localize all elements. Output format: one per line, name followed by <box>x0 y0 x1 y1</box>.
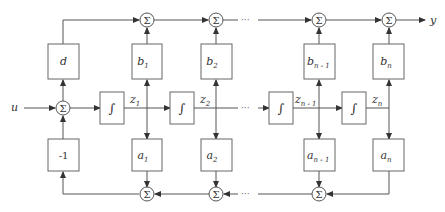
sum-input: Σ <box>56 101 70 115</box>
svg-text:Σ: Σ <box>143 15 150 26</box>
svg-text:Σ: Σ <box>143 189 150 200</box>
state-zn-label: zn <box>371 93 383 108</box>
svg-text:Σ: Σ <box>385 15 392 26</box>
state-z1-label: z1 <box>129 93 140 108</box>
gain-b1-block: b1 <box>132 28 162 108</box>
svg-text:Σ: Σ <box>212 189 219 200</box>
sum-top-n-1: Σ <box>312 13 326 27</box>
state-zn-1-label: zn - 1 <box>294 93 317 108</box>
ellipsis-middle: ··· <box>241 103 250 113</box>
integrator-2: ∫ <box>170 92 194 124</box>
sum-bottom-1: Σ <box>140 187 154 201</box>
svg-text:∫: ∫ <box>278 101 285 116</box>
svg-text:Σ: Σ <box>212 15 219 26</box>
gain-d-block: d <box>48 44 79 79</box>
ellipsis-top: ··· <box>241 15 250 25</box>
block-diagram: ··· y Σ Σ Σ Σ d b1 b2 bn - 1 <box>0 0 445 212</box>
svg-text:∫: ∫ <box>179 101 186 116</box>
svg-text:Σ: Σ <box>315 15 322 26</box>
gain-a1-block: a1 <box>132 108 162 187</box>
ellipsis-bottom: ··· <box>241 189 250 199</box>
output-label-y: y <box>429 14 437 27</box>
integrator-n-1: ∫ <box>269 92 293 124</box>
wire-d-to-sum1 <box>63 20 139 44</box>
svg-text:d: d <box>60 55 67 68</box>
svg-text:Σ: Σ <box>315 189 322 200</box>
svg-text:∫: ∫ <box>351 101 358 116</box>
sum-bottom-2: Σ <box>209 187 223 201</box>
svg-text:-1: -1 <box>59 150 69 161</box>
input-label-u: u <box>11 101 18 114</box>
sum-top-2: Σ <box>209 13 223 27</box>
gain-bn-1-block: bn - 1 <box>304 28 335 108</box>
gain-a2-block: a2 <box>201 108 232 187</box>
integrator-1: ∫ <box>100 92 124 124</box>
integrator-n: ∫ <box>342 92 366 124</box>
svg-text:∫: ∫ <box>109 101 116 116</box>
sum-top-1: Σ <box>140 13 154 27</box>
svg-text:Σ: Σ <box>59 103 66 114</box>
sum-bottom-n-1: Σ <box>312 187 326 201</box>
state-z2-label: z2 <box>199 93 211 108</box>
wire-feedback-to-neg1 <box>63 172 139 194</box>
sum-top-n: Σ <box>382 13 396 27</box>
gain-neg1-block: -1 <box>48 139 79 171</box>
gain-an-1-block: an - 1 <box>304 108 335 187</box>
